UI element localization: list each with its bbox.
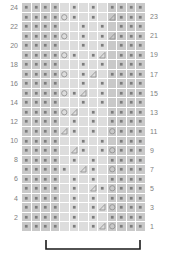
chart-cell — [22, 13, 32, 23]
purl-dot-icon — [98, 79, 107, 88]
chart-cell — [127, 108, 137, 118]
chart-cell — [127, 32, 137, 42]
purl-dot-icon — [136, 184, 145, 193]
chart-cell — [32, 79, 42, 89]
purl-dot-icon — [70, 222, 79, 231]
chart-cell — [108, 32, 118, 42]
chart-cell — [70, 70, 80, 80]
chart-cell — [70, 213, 80, 223]
chart-cell — [136, 3, 146, 13]
chart-cell — [51, 41, 61, 51]
chart-cell — [60, 3, 70, 13]
purl-dot-icon — [127, 51, 136, 60]
chart-cell — [51, 98, 61, 108]
purl-dot-icon — [117, 175, 126, 184]
chart-cell — [60, 32, 70, 42]
chart-cell — [41, 127, 51, 137]
chart-cell — [89, 137, 99, 147]
row-number-left-24: 24 — [0, 4, 18, 11]
chart-cell — [32, 13, 42, 23]
decrease-triangle-icon — [79, 165, 88, 174]
chart-cell — [22, 70, 32, 80]
chart-cell — [79, 127, 89, 137]
purl-dot-icon — [51, 3, 60, 12]
purl-dot-icon — [32, 41, 41, 50]
chart-cell — [108, 3, 118, 13]
purl-dot-icon — [32, 137, 41, 146]
chart-cell — [41, 203, 51, 213]
chart-cell — [127, 98, 137, 108]
decrease-triangle-icon — [70, 108, 79, 117]
row-number-right-7: 7 — [150, 166, 169, 173]
purl-dot-icon — [117, 165, 126, 174]
chart-cell — [117, 3, 127, 13]
row-number-left-10: 10 — [0, 137, 18, 144]
row-number-left-8: 8 — [0, 156, 18, 163]
purl-dot-icon — [79, 70, 88, 79]
purl-dot-icon — [70, 203, 79, 212]
chart-cell — [32, 108, 42, 118]
chart-cell — [41, 213, 51, 223]
purl-dot-icon — [51, 89, 60, 98]
chart-cell — [70, 32, 80, 42]
chart-cell — [98, 60, 108, 70]
yarn-over-circle-icon — [60, 70, 69, 79]
chart-cell — [136, 137, 146, 147]
purl-dot-icon — [117, 117, 126, 126]
purl-dot-icon — [136, 108, 145, 117]
chart-cell — [136, 222, 146, 232]
chart-cell — [60, 213, 70, 223]
chart-cell — [108, 51, 118, 61]
purl-dot-icon — [79, 146, 88, 155]
purl-dot-icon — [127, 194, 136, 203]
purl-dot-icon — [117, 13, 126, 22]
chart-cell — [136, 213, 146, 223]
chart-cell — [32, 89, 42, 99]
purl-dot-icon — [127, 60, 136, 69]
chart-cell — [41, 175, 51, 185]
chart-cell — [51, 203, 61, 213]
purl-dot-icon — [22, 156, 31, 165]
purl-dot-icon — [127, 70, 136, 79]
purl-dot-icon — [51, 137, 60, 146]
decrease-triangle-icon — [89, 184, 98, 193]
chart-cell — [32, 175, 42, 185]
purl-dot-icon — [117, 222, 126, 231]
chart-cell — [89, 213, 99, 223]
chart-cell — [98, 117, 108, 127]
chart-cell — [51, 60, 61, 70]
chart-cell — [127, 203, 137, 213]
chart-cell — [22, 194, 32, 204]
chart-cell — [41, 3, 51, 13]
purl-dot-icon — [127, 41, 136, 50]
yarn-over-circle-icon — [60, 89, 69, 98]
purl-dot-icon — [41, 175, 50, 184]
purl-dot-icon — [98, 41, 107, 50]
chart-cell — [32, 146, 42, 156]
chart-cell — [22, 79, 32, 89]
chart-cell — [117, 70, 127, 80]
decrease-triangle-icon — [98, 203, 107, 212]
chart-cell — [98, 175, 108, 185]
purl-dot-icon — [79, 32, 88, 41]
purl-dot-icon — [32, 51, 41, 60]
row-number-right-1: 1 — [150, 223, 169, 230]
chart-cell — [127, 184, 137, 194]
chart-cell — [136, 98, 146, 108]
purl-dot-icon — [41, 194, 50, 203]
purl-dot-icon — [117, 79, 126, 88]
purl-dot-icon — [70, 117, 79, 126]
purl-dot-icon — [41, 127, 50, 136]
purl-dot-icon — [51, 13, 60, 22]
purl-dot-icon — [98, 89, 107, 98]
purl-dot-icon — [108, 175, 117, 184]
purl-dot-icon — [51, 108, 60, 117]
chart-cell — [117, 108, 127, 118]
chart-cell — [127, 137, 137, 147]
purl-dot-icon — [22, 175, 31, 184]
row-number-right-11: 11 — [150, 128, 169, 135]
purl-dot-icon — [51, 165, 60, 174]
chart-cell — [51, 184, 61, 194]
purl-dot-icon — [127, 222, 136, 231]
chart-cell — [51, 79, 61, 89]
